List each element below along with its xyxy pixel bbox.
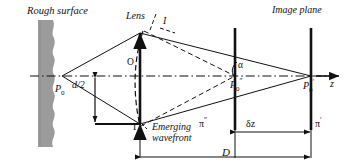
optics-ray-diagram: Rough surface Lens Image plane I O P0 d/…: [0, 0, 348, 166]
rough-surface-shape: [38, 20, 55, 147]
defocus-point-superscript: ″: [240, 78, 243, 86]
image-plane-label: Image plane: [272, 5, 322, 16]
point-I-label: I: [163, 16, 166, 27]
plane-pi-double-prime-label: π″: [199, 118, 207, 130]
image-point-superscript: ′: [313, 79, 315, 87]
lens-label: Lens: [126, 11, 145, 22]
distance-D-label: D: [222, 147, 230, 159]
marginal-rays: [62, 33, 311, 124]
gamma-label: Γ: [133, 122, 139, 133]
image-point-subscript: 0: [309, 86, 313, 94]
defocus-point-label: P0″: [230, 79, 243, 94]
source-point-label: P0: [55, 84, 65, 97]
alpha-angle-label: α: [238, 61, 243, 71]
half-aperture-label: d/2: [72, 80, 85, 91]
plane-pi-prime-label: π′: [315, 118, 322, 130]
rough-surface-label: Rough surface: [27, 5, 88, 16]
lens-center-label: O: [127, 58, 134, 68]
pi-double-prime-superscript: ″: [204, 117, 207, 125]
defocus-point-subscript: 0: [236, 85, 240, 93]
emerging-wavefront-label: Emerging wavefront: [152, 122, 192, 143]
gamma-tick: [142, 124, 147, 129]
image-point-label: P0′: [303, 80, 314, 95]
source-point-subscript: 0: [61, 89, 65, 97]
pi-prime-superscript: ′: [320, 117, 322, 125]
emerging-wavefront-line2: wavefront: [152, 132, 192, 143]
delta-z-label: δz: [246, 119, 255, 130]
emerging-wavefront-line1: Emerging: [152, 121, 191, 132]
z-axis-label: z: [330, 79, 334, 90]
